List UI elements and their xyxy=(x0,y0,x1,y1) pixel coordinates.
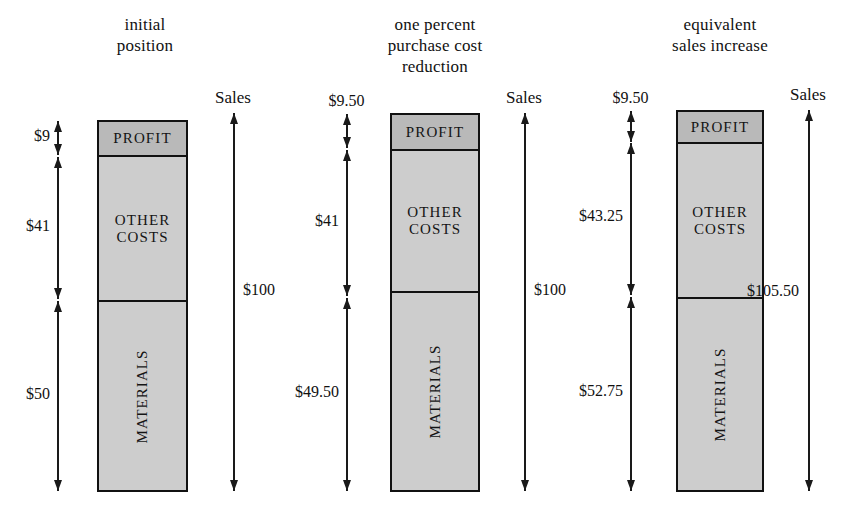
arrowhead-up-icon xyxy=(627,297,635,308)
bar-segment-profit-label: PROFIT xyxy=(691,119,749,136)
sales-measure-label: $105.50 xyxy=(747,282,799,300)
sales-measure: $100 xyxy=(524,113,525,491)
arrowhead-down-icon xyxy=(230,480,238,491)
arrowhead-up-icon xyxy=(343,298,351,309)
measure-shaft xyxy=(630,297,632,491)
bar-segment-profit: PROFIT xyxy=(678,112,762,144)
other-costs-measure-label: $43.25 xyxy=(579,207,623,225)
other-costs-measure: $41 xyxy=(346,150,347,296)
measure-shaft xyxy=(524,113,526,491)
measure-shaft xyxy=(346,298,348,491)
bar-segment-other-costs-label: OTHER COSTS xyxy=(115,212,171,246)
bar-segment-materials-label: MATERIALS xyxy=(134,349,151,443)
measure-shaft xyxy=(630,143,632,295)
arrowhead-down-icon xyxy=(343,285,351,296)
bar-segment-other-costs-label: OTHER COSTS xyxy=(692,204,748,238)
stacked-bar: PROFIT OTHER COSTS MATERIALS xyxy=(390,113,480,492)
panel-one-percent-purchase-cost-reduction: one percent purchase cost reduction Sale… xyxy=(290,0,580,516)
sales-measure: $105.50 xyxy=(808,110,809,491)
measure-shaft xyxy=(808,110,810,491)
sales-measure-label: $100 xyxy=(243,281,275,299)
materials-measure-label: $50 xyxy=(26,385,50,403)
bar-segment-other-costs: OTHER COSTS xyxy=(678,144,762,299)
panel-title: one percent purchase cost reduction xyxy=(340,14,530,77)
diagram-canvas: initial position Sales PROFIT OTHER COST… xyxy=(0,0,868,516)
profit-measure-label: $9.50 xyxy=(329,92,365,110)
arrowhead-up-icon xyxy=(627,143,635,154)
bar-segment-materials: MATERIALS xyxy=(99,302,186,490)
bar-segment-materials-label: MATERIALS xyxy=(712,347,729,441)
other-costs-measure: $41 xyxy=(57,157,58,299)
panel-initial-position: initial position Sales PROFIT OTHER COST… xyxy=(0,0,290,516)
arrowhead-down-icon xyxy=(627,480,635,491)
bar-segment-other-costs: OTHER COSTS xyxy=(392,151,478,293)
arrowhead-down-icon xyxy=(805,480,813,491)
sales-measure-label: $100 xyxy=(534,281,566,299)
arrowhead-up-icon xyxy=(521,113,529,124)
sales-caption: Sales xyxy=(506,88,542,108)
panel-equivalent-sales-increase: equivalent sales increase Sales PROFIT O… xyxy=(580,0,868,516)
arrowhead-down-icon xyxy=(54,288,62,299)
bar-segment-other-costs-label: OTHER COSTS xyxy=(407,204,463,238)
arrowhead-down-icon xyxy=(54,480,62,491)
sales-measure: $100 xyxy=(233,113,234,491)
measure-shaft xyxy=(233,113,235,491)
bar-segment-profit: PROFIT xyxy=(392,115,478,151)
arrowhead-up-icon xyxy=(343,150,351,161)
measure-shaft xyxy=(57,157,59,299)
bar-segment-materials: MATERIALS xyxy=(392,293,478,490)
other-costs-measure-label: $41 xyxy=(315,212,339,230)
arrowhead-up-icon xyxy=(343,114,351,125)
materials-measure: $52.75 xyxy=(630,297,631,491)
stacked-bar: PROFIT OTHER COSTS MATERIALS xyxy=(676,110,764,492)
arrowhead-down-icon xyxy=(343,137,351,148)
arrowhead-up-icon xyxy=(627,111,635,122)
arrowhead-down-icon xyxy=(54,144,62,155)
arrowhead-down-icon xyxy=(627,284,635,295)
arrowhead-up-icon xyxy=(54,121,62,132)
stacked-bar: PROFIT OTHER COSTS MATERIALS xyxy=(97,120,188,492)
profit-measure: $9.50 xyxy=(346,114,347,148)
panel-title: equivalent sales increase xyxy=(620,14,820,56)
profit-measure: $9 xyxy=(57,121,58,155)
arrowhead-up-icon xyxy=(54,157,62,168)
profit-measure-label: $9.50 xyxy=(613,89,649,107)
measure-shaft xyxy=(346,150,348,296)
materials-measure-label: $52.75 xyxy=(579,382,623,400)
bar-segment-materials-label: MATERIALS xyxy=(427,344,444,438)
sales-caption: Sales xyxy=(790,85,826,105)
profit-measure-label: $9 xyxy=(34,127,50,145)
materials-measure: $49.50 xyxy=(346,298,347,491)
arrowhead-down-icon xyxy=(521,480,529,491)
materials-measure: $50 xyxy=(57,301,58,491)
arrowhead-down-icon xyxy=(343,480,351,491)
profit-measure: $9.50 xyxy=(630,111,631,142)
bar-segment-profit-label: PROFIT xyxy=(113,130,171,147)
panel-title: initial position xyxy=(55,14,235,56)
materials-measure-label: $49.50 xyxy=(295,383,339,401)
bar-segment-profit-label: PROFIT xyxy=(406,124,464,141)
bar-segment-other-costs: OTHER COSTS xyxy=(99,157,186,302)
bar-segment-materials: MATERIALS xyxy=(678,299,762,490)
arrowhead-up-icon xyxy=(54,301,62,312)
arrowhead-up-icon xyxy=(230,113,238,124)
sales-caption: Sales xyxy=(215,88,251,108)
other-costs-measure-label: $41 xyxy=(26,217,50,235)
other-costs-measure: $43.25 xyxy=(630,143,631,295)
measure-shaft xyxy=(57,301,59,491)
arrowhead-up-icon xyxy=(805,110,813,121)
bar-segment-profit: PROFIT xyxy=(99,122,186,157)
arrowhead-down-icon xyxy=(627,131,635,142)
